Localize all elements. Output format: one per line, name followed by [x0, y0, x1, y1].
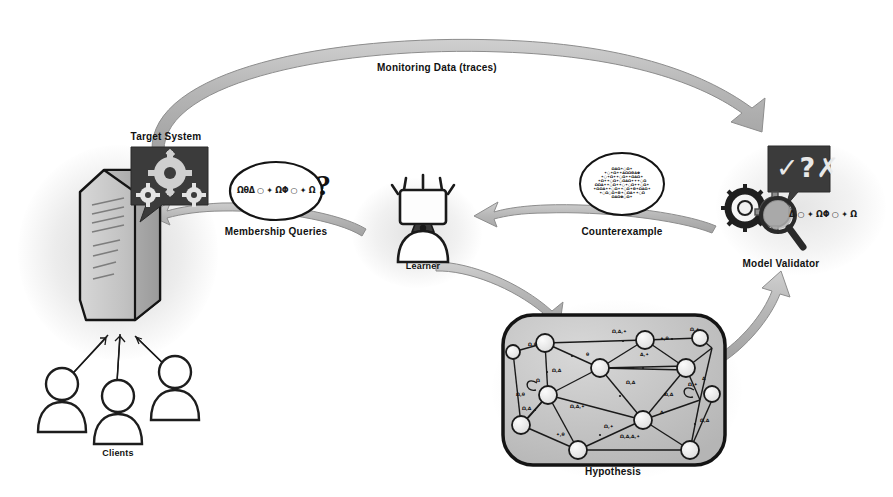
label-model-validator: Model Validator — [743, 258, 820, 269]
diagram-canvas: ΩθΔ ○ ✦ ΩΦ ○ ✦ Ω ? ΩΔΩ✦○Ω✦✦○✦Ω✦✦ΔΩΩΘΔΦ✦○… — [0, 0, 893, 497]
graph-edge-label: ✦,θ — [556, 432, 565, 437]
diagram-vector-layer — [0, 0, 893, 497]
graph-edge-label: Ω,Δ — [522, 406, 531, 411]
label-target-system: Target System — [131, 131, 202, 142]
graph-edge-label: Ω,Δ — [626, 380, 635, 385]
label-membership-queries: Membership Queries — [225, 226, 328, 237]
graph-edge-label: Δ — [660, 410, 664, 415]
edge-monitoring-data — [152, 39, 765, 151]
client-person-2 — [94, 380, 142, 444]
graph-edge-label: Ω,✦ — [604, 424, 614, 429]
label-hypothesis: Hypothesis — [585, 466, 641, 477]
graph-edge-label: Ω,✦ — [688, 382, 698, 387]
label-counterexample: Counterexample — [581, 226, 662, 237]
graph-edge-label: Ω,Δ,Δ,✦ — [620, 434, 640, 439]
counterexample-symbol-block: ΩΔΩ✦○Ω✦✦○✦Ω✦✦ΔΩΩΘΔΦ✦○✦Ω✦✦○Ω✦✦ΩΔΩ✦✦Ω✦✦○Ω✦… — [585, 158, 659, 210]
graph-edge-label: Ω — [536, 378, 540, 383]
graph-edge-label: Ω,Δ — [552, 368, 561, 373]
graph-edge-label: Ω,Δ,✦ — [612, 329, 627, 334]
graph-edge-label: ✦,θ — [660, 336, 669, 341]
graph-edge-label: Ω,✦ — [690, 327, 700, 332]
graph-edge-label: Δ — [702, 376, 706, 381]
client-person-1 — [38, 368, 86, 432]
graph-edge-label: Ω,θ — [528, 342, 537, 347]
graph-edge-label: Ω,Δ — [664, 392, 673, 397]
counterexample-line: ΩΔΩΦ○Ω✦ — [611, 196, 632, 200]
label-learner: Learner — [406, 261, 440, 271]
validator-symbols: Δ ○ ✦ ΩΦ ○ ✦ Ω — [789, 210, 857, 219]
graph-edge-label: Ω,Δ — [700, 418, 709, 423]
membership-query-question-mark: ? — [316, 168, 331, 202]
edge-hypothesis-to-validator — [718, 271, 790, 362]
graph-edge-label: Δ,✦ — [640, 352, 649, 357]
label-clients: Clients — [102, 448, 133, 458]
graph-edge-label: Ω,Δ,✦ — [570, 404, 585, 409]
graph-edge-label: θ — [586, 352, 589, 357]
validator-verdict-glyphs: ✓?✗ — [776, 152, 840, 183]
membership-query-symbols: ΩθΔ ○ ✦ ΩΦ ○ ✦ Ω — [237, 186, 315, 195]
graph-edge-label: Ω,θ — [516, 392, 525, 397]
hypothesis-graph-panel — [503, 315, 725, 465]
label-monitoring-data: Monitoring Data (traces) — [377, 62, 497, 73]
client-person-3 — [151, 356, 199, 420]
client-connection-lines — [63, 334, 172, 384]
learner-icon — [392, 175, 454, 262]
